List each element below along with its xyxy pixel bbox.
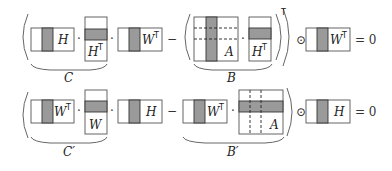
svg-text:T: T [218,103,224,112]
svg-text:T: T [65,103,71,112]
svg-text:H: H [333,105,345,119]
svg-text:W: W [89,118,103,132]
matrix-H: H [31,28,74,51]
brace-c [31,64,107,70]
brace-b-prime [183,137,284,143]
matrix-A: A [194,17,238,61]
matrix-equations-diagram: H · H T · W T − A · [0,0,392,171]
matrix-A-2: A [239,90,283,134]
svg-text:·: · [77,32,81,46]
equation-row-2: W T · W · H − W T · [23,88,377,159]
left-paren-b [185,14,190,60]
svg-text:⊙: ⊙ [296,105,306,119]
matrix-W-transpose: W T [118,28,162,51]
matrix-H-2: H [118,100,162,123]
svg-text:= 0: = 0 [355,33,377,47]
svg-text:·: · [231,104,235,118]
svg-text:T: T [341,31,347,40]
matrix-W-transpose-b2: W T [183,100,227,123]
svg-text:A: A [224,45,234,59]
svg-text:·: · [110,32,114,46]
matrix-W-transpose-hadamard: W T [306,28,350,51]
right-paren-2 [287,88,292,136]
left-paren [23,14,28,60]
svg-text:= 0: = 0 [355,105,377,119]
svg-text:T: T [280,8,286,17]
svg-text:−: − [167,32,177,46]
equation-row-1: H · H T · W T − A · [23,8,377,85]
svg-text:B: B [226,71,236,85]
matrix-H-transpose-b: H T [249,17,271,61]
svg-text:H: H [145,105,157,119]
svg-text:⊙: ⊙ [296,33,306,47]
svg-text:·: · [241,32,245,46]
svg-text:T: T [153,31,159,40]
matrix-W: W [85,90,107,134]
svg-text:−: − [167,104,177,118]
svg-text:B′: B′ [226,145,239,159]
svg-text:C′: C′ [63,145,75,159]
brace-c-prime [31,137,107,143]
svg-text:T: T [97,43,103,52]
brace-b [194,64,272,70]
left-paren-2 [23,92,28,138]
matrix-H-transpose: H T [85,17,107,61]
right-paren-b [276,14,281,60]
svg-text:T: T [261,43,267,52]
svg-text:·: · [110,104,114,118]
matrix-W-transpose-2: W T [31,100,74,123]
svg-text:H: H [57,33,69,47]
svg-text:·: · [77,104,81,118]
matrix-H-hadamard: H [306,100,350,123]
svg-text:A: A [269,118,279,132]
svg-text:C: C [64,71,73,85]
